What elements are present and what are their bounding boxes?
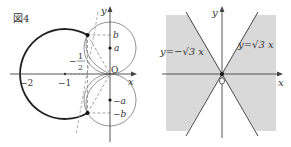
point-bottom <box>86 111 90 115</box>
tick-minus-one <box>64 73 66 75</box>
x-axis-arrow <box>277 72 283 77</box>
half-numerator: 1 <box>78 52 83 61</box>
label-b-bottom: −b <box>113 109 127 119</box>
point-a-bottom <box>108 98 111 101</box>
lower-lens-arc <box>86 74 110 113</box>
origin-label: O <box>111 65 118 75</box>
dashed-diag-bottom <box>88 74 111 113</box>
x-axis-label: x <box>128 76 134 87</box>
excluded-open-point <box>220 78 225 84</box>
half-sign: − <box>69 56 77 66</box>
point-top <box>86 33 90 37</box>
shaded-region-right <box>222 15 276 131</box>
label-b-top: b <box>113 30 119 40</box>
figure-label: 図4 <box>13 13 29 24</box>
tick-label-minus-1: −1 <box>58 78 71 88</box>
right-diagram: y x y=−√3 x y=√3 x <box>159 6 284 138</box>
origin-point <box>220 72 224 76</box>
y-axis-arrow <box>108 6 113 12</box>
y-axis-arrow <box>220 6 225 12</box>
tick-label-minus-2: −2 <box>20 78 33 88</box>
shaded-region-left <box>166 15 222 131</box>
point-a-top <box>108 46 111 49</box>
half-denominator: 2 <box>78 63 83 72</box>
x-axis-label: x <box>278 77 284 88</box>
figure-4: 図4 y x O −2 −1 − 1 2 b a −a −b y x y=−√3… <box>0 0 291 147</box>
y-axis-label: y <box>211 7 218 18</box>
y-axis-label: y <box>100 5 107 16</box>
upper-lens-arc <box>86 35 110 74</box>
label-line-neg: y=−√3 x <box>159 46 204 57</box>
label-a-bottom: −a <box>113 96 126 106</box>
label-line-pos: y=√3 x <box>237 39 274 50</box>
dashed-diag-top <box>88 35 111 74</box>
left-diagram: 図4 y x O −2 −1 − 1 2 b a −a −b <box>10 5 137 142</box>
label-a-top: a <box>114 43 119 53</box>
